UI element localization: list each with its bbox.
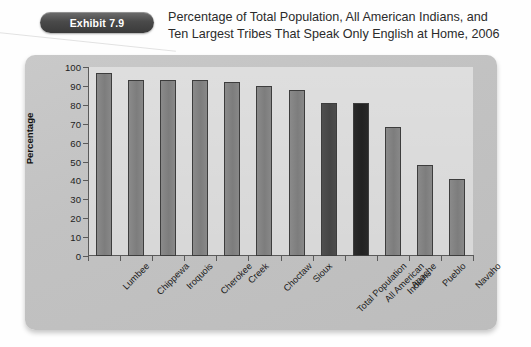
bar [224,82,240,256]
x-axis-category-label: Choctaw [282,261,314,293]
x-axis-category-label: Pueblo [440,261,467,288]
y-axis-tick-label: 80 [55,105,81,106]
y-axis-tick [83,86,88,87]
y-axis-tick [83,124,88,125]
chart-panel: 0102030405060708090100 Percentage Lumbee… [25,55,497,330]
exhibit-title-line-1: Percentage of Total Population, All Amer… [168,9,500,26]
x-axis-category-label-line: Navaho [473,261,502,290]
bar [353,103,369,256]
bar [192,80,208,256]
x-axis-category-label: Lumbee [121,261,152,292]
x-axis-category-label: Sioux [310,261,333,284]
y-axis-tick [83,162,88,163]
bar [160,80,176,256]
x-axis-labels: LumbeeChippewaIroquoisCherokeeCreekChoct… [88,261,483,331]
bar [321,103,337,256]
bar [128,80,144,256]
y-axis-tick [83,218,88,219]
bar-series [88,67,473,256]
y-axis-tick [83,143,88,144]
bar [417,165,433,256]
x-axis-category-label-line: Chippewa [155,261,191,297]
bar [449,179,465,256]
exhibit-title: Percentage of Total Population, All Amer… [168,9,500,42]
y-axis-tick [83,180,88,181]
bar [289,90,305,256]
exhibit-number-badge: Exhibit 7.9 [40,12,154,33]
y-axis-tick [83,256,88,257]
x-axis-category-label-line: Choctaw [282,261,314,293]
y-axis-tick [83,105,88,106]
bar [256,86,272,256]
x-axis-category-label-line: Sioux [310,261,333,284]
bar [96,73,112,256]
y-axis-tick-label: 60 [55,143,81,144]
y-axis-tick-label: 70 [55,124,81,125]
y-axis-tick-label: 100 [55,67,81,68]
y-axis-tick [83,67,88,68]
bar [385,127,401,256]
y-axis-tick-label: 30 [55,199,81,200]
exhibit-title-line-2: Ten Largest Tribes That Speak Only Engli… [168,26,500,43]
y-axis-tick-label: 40 [55,180,81,181]
y-axis-tick [83,237,88,238]
y-axis-tick [83,199,88,200]
y-axis-tick-label: 50 [55,162,81,163]
y-axis-tick-label: 0 [55,256,81,257]
y-axis-title: Percentage [24,113,35,165]
x-axis-category-label-line: Pueblo [440,261,467,288]
y-axis-tick-label: 10 [55,237,81,238]
x-axis-category-label-line: Lumbee [121,261,152,292]
x-axis-category-label: Navaho [473,261,502,290]
x-axis-category-label: Chippewa [155,261,191,297]
exhibit-figure: Exhibit 7.9 Percentage of Total Populati… [0,0,531,347]
y-axis-tick-label: 90 [55,86,81,87]
y-axis-tick-label: 20 [55,218,81,219]
exhibit-header: Exhibit 7.9 Percentage of Total Populati… [0,8,531,50]
